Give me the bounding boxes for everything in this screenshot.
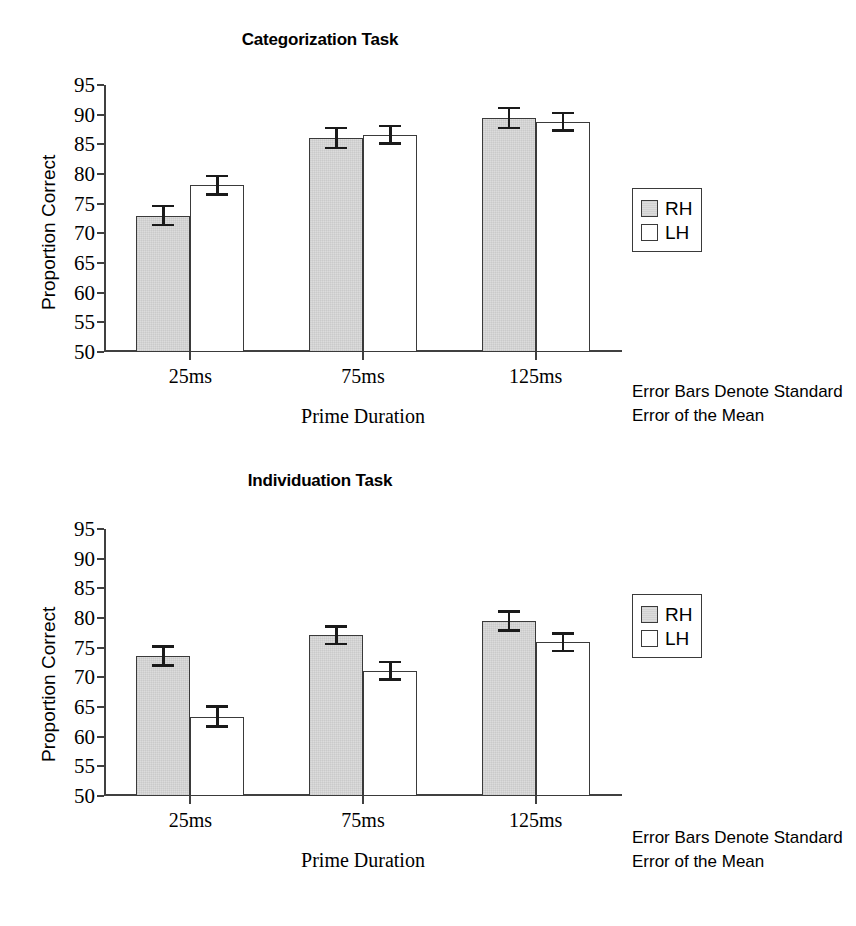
bar-lh-125ms [536, 642, 590, 796]
legend: RH LH [632, 594, 702, 658]
x-axis-tick [535, 796, 537, 804]
legend-swatch-lh-icon [641, 630, 658, 647]
y-axis-tick [97, 765, 104, 767]
error-bar-cap-bottom [379, 678, 401, 681]
y-axis-tick [97, 736, 104, 738]
y-axis-tick-label: 70 [74, 667, 95, 688]
y-axis-tick-label: 70 [74, 223, 95, 244]
plot-area: 5055606570758085909525ms75ms125ms [104, 529, 622, 796]
error-bar-cap-bottom [379, 142, 401, 145]
legend-item-rh: RH [641, 602, 692, 626]
y-axis-tick [97, 587, 104, 589]
error-bar-cap-bottom [206, 725, 228, 728]
y-axis-line [104, 529, 106, 796]
legend-label-lh: LH [665, 223, 689, 242]
y-axis-tick [97, 114, 104, 116]
y-axis-tick [97, 795, 104, 797]
y-axis-tick-label: 80 [74, 164, 95, 185]
y-axis-tick-label: 80 [74, 608, 95, 629]
y-axis-tick [97, 706, 104, 708]
footnote-error-bars: Error Bars Denote Standard Error of the … [632, 826, 852, 874]
legend-item-lh: LH [641, 626, 692, 650]
y-axis-tick-label: 75 [74, 193, 95, 214]
y-axis-label: Proportion Correct [38, 607, 60, 762]
error-bar-cap-top [206, 175, 228, 178]
bar-rh-125ms [482, 621, 536, 796]
y-axis-tick-label: 55 [74, 312, 95, 333]
error-bar-cap-bottom [152, 664, 174, 667]
y-axis-tick [97, 676, 104, 678]
y-axis-tick-label: 90 [74, 104, 95, 125]
error-bar-cap-bottom [206, 193, 228, 196]
y-axis-tick [97, 558, 104, 560]
legend-item-lh: LH [641, 220, 692, 244]
y-axis-tick-label: 50 [74, 786, 95, 807]
error-bar-cap-top [152, 205, 174, 208]
x-axis-tick-label: 75ms [341, 365, 384, 388]
y-axis-tick-label: 85 [74, 578, 95, 599]
error-bar-cap-bottom [152, 224, 174, 227]
y-axis-tick [97, 321, 104, 323]
y-axis-tick [97, 292, 104, 294]
error-bar-cap-bottom [552, 650, 574, 653]
y-axis-tick-label: 95 [74, 519, 95, 540]
legend: RH LH [632, 188, 702, 252]
error-bar-cap-top [152, 645, 174, 648]
bar-rh-25ms [136, 656, 190, 796]
bar-lh-125ms [536, 122, 590, 352]
legend-label-rh: RH [665, 605, 692, 624]
legend-label-rh: RH [665, 199, 692, 218]
y-axis-tick [97, 647, 104, 649]
y-axis-tick [97, 173, 104, 175]
y-axis-tick [97, 351, 104, 353]
bar-lh-75ms [363, 671, 417, 796]
error-bar-cap-top [325, 127, 347, 130]
error-bar-cap-top [206, 705, 228, 708]
plot-area: 5055606570758085909525ms75ms125ms [104, 85, 622, 352]
error-bar-cap-bottom [498, 629, 520, 632]
error-bar-cap-top [498, 610, 520, 613]
x-axis-tick [362, 352, 364, 360]
bar-lh-25ms [190, 717, 244, 797]
y-axis-tick-label: 90 [74, 548, 95, 569]
bar-rh-125ms [482, 118, 536, 352]
y-axis-tick-label: 65 [74, 697, 95, 718]
y-axis-tick-label: 65 [74, 253, 95, 274]
error-bar-cap-bottom [325, 147, 347, 150]
y-axis-tick-label: 75 [74, 637, 95, 658]
y-axis-tick-label: 95 [74, 75, 95, 96]
bar-lh-75ms [363, 135, 417, 352]
error-bar-cap-bottom [552, 129, 574, 132]
x-axis-tick [362, 796, 364, 804]
y-axis-tick [97, 262, 104, 264]
error-bar-cap-bottom [325, 643, 347, 646]
footnote-error-bars: Error Bars Denote Standard Error of the … [632, 380, 852, 428]
y-axis-tick [97, 143, 104, 145]
chart-panel-categorization: Categorization Task Proportion Correct 5… [0, 0, 856, 462]
y-axis-tick [97, 617, 104, 619]
error-bar-cap-top [552, 632, 574, 635]
x-axis-tick-label: 125ms [509, 365, 562, 388]
y-axis-tick-label: 85 [74, 134, 95, 155]
chart-title: Individuation Task [0, 471, 640, 491]
legend-swatch-lh-icon [641, 224, 658, 241]
y-axis-tick [97, 528, 104, 530]
x-axis-tick [189, 352, 191, 360]
x-axis-tick-label: 25ms [169, 365, 212, 388]
legend-swatch-rh-icon [641, 200, 658, 217]
error-bar-cap-top [325, 625, 347, 628]
bar-rh-75ms [309, 635, 363, 796]
x-axis-label: Prime Duration [104, 849, 622, 872]
legend-item-rh: RH [641, 196, 692, 220]
error-bar-cap-top [552, 112, 574, 115]
bar-lh-25ms [190, 185, 244, 352]
x-axis-label: Prime Duration [104, 405, 622, 428]
legend-label-lh: LH [665, 629, 689, 648]
chart-title: Categorization Task [0, 30, 640, 50]
y-axis-tick-label: 50 [74, 342, 95, 363]
y-axis-line [104, 85, 106, 352]
y-axis-tick-label: 55 [74, 756, 95, 777]
x-axis-tick-label: 75ms [341, 809, 384, 832]
chart-panel-individuation: Individuation Task Proportion Correct 50… [0, 444, 856, 926]
bar-rh-25ms [136, 216, 190, 352]
